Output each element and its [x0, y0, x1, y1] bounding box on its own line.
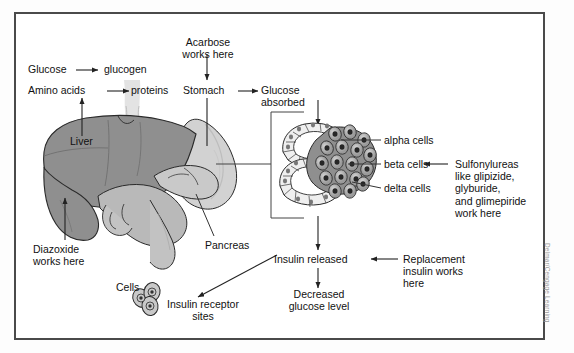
label-stomach: Stomach	[183, 84, 224, 96]
label-glucose: Glucose	[28, 63, 67, 75]
label-amino-acids: Amino acids	[28, 84, 85, 96]
label-delta-cells: delta cells	[384, 182, 431, 194]
label-decreased-glucose: Decreased glucose level	[278, 288, 360, 312]
label-alpha-cells: alpha cells	[384, 134, 434, 146]
label-cells: Cells	[116, 281, 139, 293]
label-glucogen: glucogen	[104, 63, 147, 75]
islet-of-langerhans	[280, 123, 378, 207]
label-acarbose: Acarbose works here	[168, 36, 248, 60]
label-pancreas: Pancreas	[205, 239, 249, 251]
label-insulin-released: Insulin released	[274, 253, 348, 265]
label-diazoxide: Diazoxide works here	[33, 243, 84, 267]
label-proteins: proteins	[131, 84, 168, 96]
copyright-credit: Delmar/Cengage Learning	[544, 243, 551, 333]
label-beta-cells: beta cells	[384, 158, 428, 170]
label-replacement-insulin: Replacement insulin works here	[403, 253, 465, 290]
label-insulin-receptor-sites: Insulin receptor sites	[154, 298, 252, 322]
label-liver: Liver	[70, 135, 93, 147]
figure-canvas: Acarbose works here Glucose glucogen Ami…	[0, 0, 574, 353]
label-sulfonylureas: Sulfonylureas like glipizide, glyburide,…	[455, 158, 526, 219]
label-glucose-absorbed: Glucose absorbed	[261, 84, 305, 108]
